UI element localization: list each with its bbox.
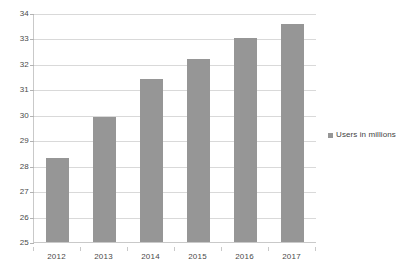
y-axis-tick-label: 31 — [3, 86, 29, 94]
x-axis-tick — [127, 247, 128, 251]
y-axis-tick-label: 28 — [3, 163, 29, 171]
x-axis-tick — [174, 247, 175, 251]
y-axis-tick-label: 30 — [3, 112, 29, 120]
bar-group — [175, 14, 222, 242]
y-axis-tick-label: 29 — [3, 137, 29, 145]
bar-group — [128, 14, 175, 242]
x-axis-tick — [33, 247, 34, 251]
y-axis-tick-label: 27 — [3, 188, 29, 196]
y-axis-tick-label: 32 — [3, 61, 29, 69]
bar — [187, 59, 210, 242]
x-axis-tick-label: 2015 — [174, 253, 221, 261]
bar-group — [81, 14, 128, 242]
y-axis-tick-label: 34 — [3, 10, 29, 18]
bar — [93, 117, 116, 242]
x-axis-tick-label: 2014 — [127, 253, 174, 261]
x-axis-tick-label: 2017 — [268, 253, 315, 261]
y-axis-tick-label: 26 — [3, 214, 29, 222]
x-axis-tick-label: 2013 — [80, 253, 127, 261]
bar — [281, 24, 304, 242]
bar-group — [34, 14, 81, 242]
x-axis-tick — [221, 247, 222, 251]
y-axis-tick-label: 33 — [3, 35, 29, 43]
bar-group — [269, 14, 316, 242]
y-axis: 34333231302928272625 — [0, 14, 29, 243]
y-axis-tick-label: 25 — [3, 239, 29, 247]
bar — [234, 38, 257, 242]
bar-chart: 34333231302928272625 2012201320142015201… — [0, 0, 403, 267]
x-axis-tick — [268, 247, 269, 251]
x-axis-tick — [80, 247, 81, 251]
x-axis-tick-label: 2016 — [221, 253, 268, 261]
x-axis-tick — [315, 247, 316, 251]
x-axis-tick-label: 2012 — [33, 253, 80, 261]
bar — [140, 79, 163, 242]
y-axis-tick — [30, 243, 34, 244]
chart-legend: Users in millions — [328, 131, 396, 139]
legend-swatch-icon — [328, 133, 333, 138]
bar — [46, 158, 69, 242]
bar-group — [222, 14, 269, 242]
legend-label: Users in millions — [336, 131, 396, 139]
plot-area — [33, 14, 316, 243]
x-axis: 201220132014201520162017 — [33, 247, 316, 263]
